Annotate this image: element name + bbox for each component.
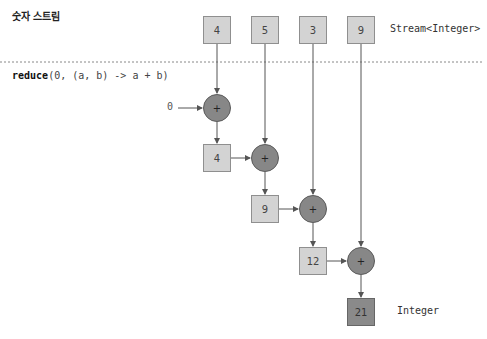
plus-operator: + bbox=[203, 94, 231, 122]
stream-type-label: Stream<Integer> bbox=[390, 23, 480, 34]
plus-operator: + bbox=[347, 247, 375, 275]
intermediate-result: 4 bbox=[203, 144, 231, 172]
reduce-args: (0, (a, b) -> a + b) bbox=[48, 70, 168, 81]
diagram-title: 숫자 스트림 bbox=[12, 8, 60, 23]
plus-operator: + bbox=[251, 144, 279, 172]
result-type-label: Integer bbox=[397, 305, 439, 316]
stream-element: 9 bbox=[347, 16, 375, 44]
intermediate-result: 12 bbox=[299, 247, 327, 275]
final-result: 21 bbox=[347, 298, 375, 326]
initial-value: 0 bbox=[167, 101, 173, 112]
connector-lines bbox=[0, 0, 487, 339]
stream-element: 4 bbox=[203, 16, 231, 44]
intermediate-result: 9 bbox=[251, 195, 279, 223]
plus-operator: + bbox=[299, 195, 327, 223]
reduce-expression: reduce(0, (a, b) -> a + b) bbox=[12, 70, 169, 81]
stream-element: 3 bbox=[299, 16, 327, 44]
reduce-diagram: 숫자 스트림 Stream<Integer> 4 5 3 9 reduce(0,… bbox=[0, 0, 487, 339]
stream-element: 5 bbox=[251, 16, 279, 44]
reduce-keyword: reduce bbox=[12, 70, 48, 81]
